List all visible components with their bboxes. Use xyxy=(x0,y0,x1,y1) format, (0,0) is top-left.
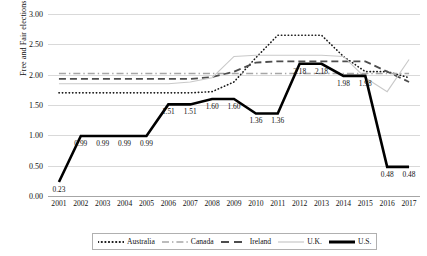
x-axis-tick-label: 2012 xyxy=(292,199,307,208)
x-axis-tick-label: 2001 xyxy=(51,199,66,208)
x-axis-tick-label: 2010 xyxy=(248,199,263,208)
plot-area: 0.000.501.001.502.002.503.000.230.990.99… xyxy=(48,14,420,196)
x-axis-tick-label: 2006 xyxy=(161,199,176,208)
legend-key-icon xyxy=(221,238,247,246)
chart-legend: AustraliaCanadaIrelandU.K.U.S. xyxy=(92,233,377,250)
y-axis-tick-label: 2.00 xyxy=(29,70,43,79)
y-axis-tick-label: 2.50 xyxy=(29,40,43,49)
x-axis-tick-label: 2008 xyxy=(205,199,220,208)
y-axis-tick-label: 1.00 xyxy=(29,131,43,140)
x-axis-tick-label: 2014 xyxy=(336,199,351,208)
x-axis-tick-label: 2013 xyxy=(314,199,329,208)
x-axis-tick-label: 2009 xyxy=(226,199,241,208)
series-layer xyxy=(48,14,420,196)
x-axis-tick-label: 2004 xyxy=(117,199,132,208)
legend-item-ireland[interactable]: Ireland xyxy=(221,237,272,246)
chart-container: Free and Fair elections (V-Dem) 0.000.50… xyxy=(0,0,427,256)
legend-item-label: U.K. xyxy=(307,237,322,246)
gridline xyxy=(48,196,420,197)
legend-key-icon xyxy=(329,238,355,246)
x-axis-tick-label: 2017 xyxy=(401,199,416,208)
legend-item-us[interactable]: U.S. xyxy=(329,237,372,246)
legend-item-label: Ireland xyxy=(250,237,272,246)
legend-item-label: U.S. xyxy=(358,237,372,246)
legend-item-australia[interactable]: Australia xyxy=(98,237,155,246)
x-axis-tick-label: 2011 xyxy=(270,199,285,208)
y-axis-tick-label: 0.00 xyxy=(29,192,43,201)
x-axis-tick-label: 2015 xyxy=(358,199,373,208)
series-line-ireland xyxy=(59,61,409,82)
x-axis-tick-label: 2003 xyxy=(95,199,110,208)
x-axis-tick-labels: 2001200220032004200520062007200820092010… xyxy=(48,199,420,213)
y-axis-tick-label: 1.50 xyxy=(29,101,43,110)
legend-item-label: Australia xyxy=(127,237,155,246)
legend-key-icon xyxy=(278,238,304,246)
x-axis-tick-label: 2002 xyxy=(73,199,88,208)
legend-item-canada[interactable]: Canada xyxy=(162,237,214,246)
legend-item-label: Canada xyxy=(191,237,214,246)
x-axis-tick-label: 2007 xyxy=(183,199,198,208)
y-axis-title: Free and Fair elections (V-Dem) xyxy=(19,0,28,108)
y-axis-tick-label: 3.00 xyxy=(29,10,43,19)
x-axis-tick-label: 2016 xyxy=(380,199,395,208)
x-axis-tick-label: 2005 xyxy=(139,199,154,208)
legend-key-icon xyxy=(98,238,124,246)
y-axis-tick-label: 0.50 xyxy=(29,161,43,170)
legend-item-uk[interactable]: U.K. xyxy=(278,237,322,246)
legend-key-icon xyxy=(162,238,188,246)
